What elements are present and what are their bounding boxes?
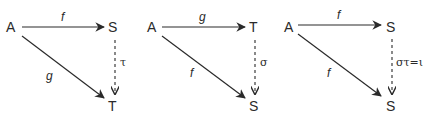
node-source: A xyxy=(6,19,16,35)
label-horizontal: g xyxy=(199,10,206,24)
node-bottom-right: S xyxy=(386,98,395,114)
label-diagonal: g xyxy=(46,69,53,83)
label-horizontal: f xyxy=(61,10,66,24)
node-bottom-right: T xyxy=(108,98,117,114)
node-bottom-right: S xyxy=(249,98,258,114)
label-vertical: σ xyxy=(260,56,268,69)
node-top-right: S xyxy=(386,19,395,35)
diagram-2: A T S g f σ xyxy=(147,10,268,114)
diagram-1: A S T f g τ xyxy=(6,10,126,114)
arrow-diagonal xyxy=(162,36,245,98)
node-top-right: S xyxy=(108,19,117,35)
label-diagonal: f xyxy=(327,66,332,80)
label-vertical: στ=ι xyxy=(396,56,423,69)
commutative-diagrams: A S T f g τ A T S g f σ A S S f f στ=ι xyxy=(0,0,424,123)
label-vertical: τ xyxy=(120,56,126,69)
node-source: A xyxy=(147,19,157,35)
node-top-right: T xyxy=(249,19,258,35)
diagram-3: A S S f f στ=ι xyxy=(284,8,423,114)
arrow-diagonal xyxy=(298,34,381,96)
node-source: A xyxy=(284,19,294,35)
label-horizontal: f xyxy=(337,8,342,22)
label-diagonal: f xyxy=(190,66,195,80)
arrow-diagonal xyxy=(22,36,104,98)
